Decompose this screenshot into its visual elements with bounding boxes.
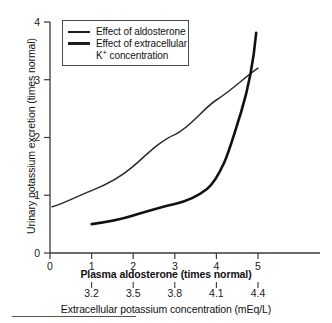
series-line-aldosterone [52, 68, 258, 207]
x-axis-title-secondary: Extracellular potassium concentration (m… [0, 303, 332, 315]
legend-label-aldosterone: Effect of aldosterone [96, 26, 185, 38]
chart-legend: Effect of aldosterone Effect of extracel… [62, 20, 189, 66]
secondary-x-tick-label-1: 3.5 [120, 288, 146, 299]
secondary-x-tick-label-3: 4.1 [203, 288, 229, 299]
legend-item-potassium: Effect of extracellularK+ concentration [68, 38, 187, 61]
y-axis-title: Urinary potassium excretion (times norma… [25, 21, 37, 251]
secondary-x-tick-label-0: 3.2 [79, 288, 105, 299]
legend-swatch-thick-line-icon [68, 42, 90, 45]
legend-label-potassium: Effect of extracellularK+ concentration [96, 38, 187, 61]
secondary-x-tick-label-4: 4.4 [245, 288, 271, 299]
x-axis-ticks [50, 253, 258, 259]
legend-swatch-thin-line-icon [68, 31, 90, 33]
legend-label-potassium-line2-prefix: K [96, 50, 103, 61]
secondary-x-tick-label-2: 3.8 [162, 288, 188, 299]
y-axis-ticks [44, 22, 50, 253]
figure-container: 0 1 2 3 4 0 1 2 3 4 5 3.2 3.5 3.8 4.1 4.… [0, 0, 332, 323]
x-axis-title-primary: Plasma aldosterone (times normal) [0, 268, 332, 280]
legend-label-potassium-line2-suffix: concentration [107, 50, 168, 61]
legend-label-potassium-line1: Effect of extracellular [96, 38, 187, 49]
footer-divider [12, 316, 136, 317]
legend-item-aldosterone: Effect of aldosterone [68, 26, 185, 38]
